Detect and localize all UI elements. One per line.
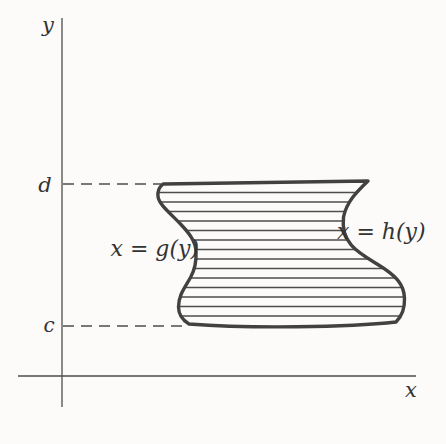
figure-page: y x d c x = g(y) x = h(y) <box>0 0 446 444</box>
left-curve-label: x = g(y) <box>110 236 199 261</box>
c-bound-label: c <box>43 313 54 337</box>
y-axis-label: y <box>41 13 55 37</box>
right-curve-label: x = h(y) <box>337 219 426 244</box>
d-bound-label: d <box>38 173 51 197</box>
x-axis-label: x <box>405 378 417 402</box>
region-between-curves-figure: y x d c x = g(y) x = h(y) <box>0 0 446 444</box>
